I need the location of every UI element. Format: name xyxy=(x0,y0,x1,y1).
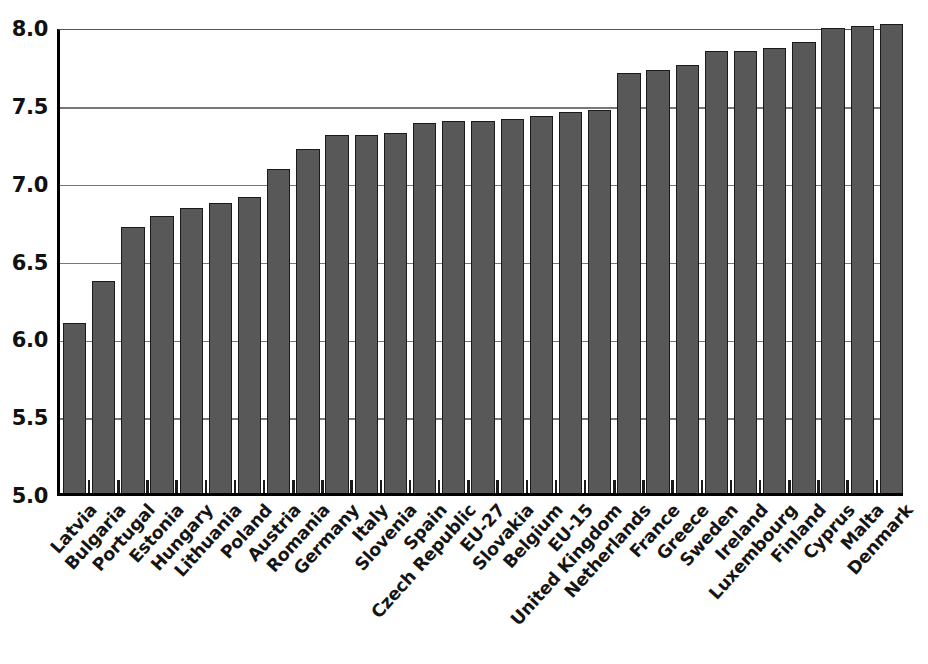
plot-area xyxy=(57,29,903,496)
bar xyxy=(442,121,465,493)
x-axis-tick xyxy=(88,480,91,493)
x-axis-tick xyxy=(175,480,178,493)
x-axis-tick xyxy=(642,480,645,493)
x-axis-tick xyxy=(292,480,295,493)
bars-layer xyxy=(60,30,903,493)
x-axis: LatviaBulgariaPortugalEstoniaHungaryLith… xyxy=(0,500,928,664)
x-axis-tick xyxy=(671,480,674,493)
bar xyxy=(821,28,844,493)
bar xyxy=(471,121,494,493)
y-tick-label: 5.5 xyxy=(12,406,48,430)
bar xyxy=(180,208,203,493)
x-axis-tick xyxy=(876,480,879,493)
x-axis-tick xyxy=(263,480,266,493)
y-tick-label: 7.5 xyxy=(12,95,48,119)
bar xyxy=(763,48,786,493)
bar xyxy=(92,281,115,493)
x-axis-tick xyxy=(788,480,791,493)
bar xyxy=(559,112,582,493)
x-axis-tick xyxy=(146,480,149,493)
bar xyxy=(296,149,319,493)
x-axis-tick xyxy=(759,480,762,493)
bar xyxy=(588,110,611,493)
x-axis-tick xyxy=(613,480,616,493)
bar xyxy=(267,169,290,493)
y-tick-label: 7.0 xyxy=(12,173,48,197)
bar xyxy=(734,51,757,493)
x-axis-tick xyxy=(438,480,441,493)
chart-page: 5.05.56.06.57.07.58.0 LatviaBulgariaPort… xyxy=(0,0,928,664)
x-axis-tick xyxy=(321,480,324,493)
bar xyxy=(792,42,815,493)
y-tick-label: 6.5 xyxy=(12,251,48,275)
x-axis-tick xyxy=(555,480,558,493)
x-axis-tick xyxy=(526,480,529,493)
bar xyxy=(150,216,173,493)
bar xyxy=(646,70,669,493)
bar xyxy=(121,227,144,493)
bar xyxy=(705,51,728,493)
y-tick-label: 6.0 xyxy=(12,328,48,352)
bar xyxy=(676,65,699,493)
bar xyxy=(413,123,436,493)
y-tick-label: 8.0 xyxy=(12,17,48,41)
bar xyxy=(209,203,232,493)
x-axis-tick xyxy=(467,480,470,493)
bar xyxy=(238,197,261,493)
bar xyxy=(384,133,407,493)
y-axis: 5.05.56.06.57.07.58.0 xyxy=(0,0,52,520)
x-axis-tick xyxy=(380,480,383,493)
bar xyxy=(880,24,903,493)
bar xyxy=(355,135,378,493)
x-axis-tick xyxy=(730,480,733,493)
bar xyxy=(530,116,553,493)
x-axis-tick xyxy=(846,480,849,493)
x-axis-tick xyxy=(117,480,120,493)
bar xyxy=(501,119,524,493)
x-axis-tick xyxy=(584,480,587,493)
x-axis-tick xyxy=(234,480,237,493)
bar xyxy=(63,323,86,493)
bar xyxy=(851,26,874,493)
x-axis-tick xyxy=(350,480,353,493)
bar xyxy=(325,135,348,493)
x-axis-tick xyxy=(817,480,820,493)
x-axis-tick xyxy=(409,480,412,493)
x-axis-tick xyxy=(496,480,499,493)
x-axis-tick xyxy=(205,480,208,493)
x-axis-tick xyxy=(701,480,704,493)
bar xyxy=(617,73,640,493)
